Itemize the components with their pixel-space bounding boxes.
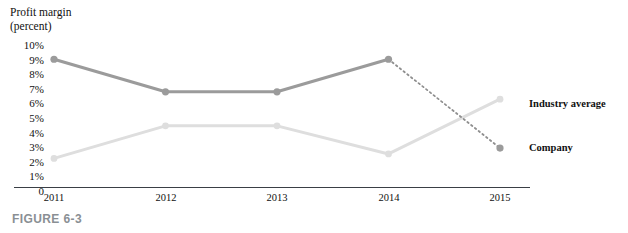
x-tick-label: 2015 <box>490 192 511 204</box>
data-point-marker <box>274 122 281 129</box>
data-point-marker <box>162 88 169 95</box>
y-tick-label: 9% <box>29 55 44 66</box>
y-tick-label: 1% <box>29 171 44 182</box>
figure-caption: FIGURE 6-3 <box>12 212 82 226</box>
y-axis-title-line-1: Profit margin <box>10 6 71 20</box>
data-point-marker <box>50 56 57 63</box>
data-point-marker <box>162 122 169 129</box>
legend-label-company: Company <box>529 142 573 154</box>
data-point-markers-company <box>50 56 503 152</box>
data-point-marker <box>496 144 503 151</box>
y-tick-label: 6% <box>29 98 44 109</box>
x-axis-tick-labels: 2011 2012 2013 2014 2015 <box>0 192 560 208</box>
y-tick-label: 4% <box>29 128 44 139</box>
line-chart-svg <box>44 40 510 188</box>
series-line-company <box>54 59 389 92</box>
series-line-company-projected <box>389 59 501 148</box>
data-point-marker <box>385 151 392 158</box>
data-point-markers-industry-average <box>51 96 504 162</box>
y-tick-label: 2% <box>29 157 44 168</box>
y-axis-tick-labels: 10% 9% 8% 7% 6% 5% 4% 3% 2% 1% 0 <box>10 40 44 188</box>
x-tick-label: 2012 <box>156 192 177 204</box>
x-tick-label: 2011 <box>44 192 65 204</box>
data-point-marker <box>497 96 504 103</box>
y-axis-title: Profit margin (percent) <box>10 6 71 33</box>
y-tick-label: 3% <box>29 142 44 153</box>
plot-area <box>44 40 510 188</box>
y-tick-label: 10% <box>24 40 44 51</box>
y-tick-label: 8% <box>29 69 44 80</box>
y-tick-label: 7% <box>29 84 44 95</box>
figure-container: Profit margin (percent) 10% 9% 8% 7% 6% … <box>0 0 628 233</box>
x-axis-line <box>14 187 530 188</box>
data-point-marker <box>273 88 280 95</box>
x-tick-label: 2014 <box>379 192 400 204</box>
data-point-marker <box>385 56 392 63</box>
y-tick-label: 5% <box>29 113 44 124</box>
legend-label-industry-average: Industry average <box>529 98 606 110</box>
data-point-marker <box>51 155 58 162</box>
y-axis-title-line-2: (percent) <box>10 20 71 34</box>
x-tick-label: 2013 <box>267 192 288 204</box>
